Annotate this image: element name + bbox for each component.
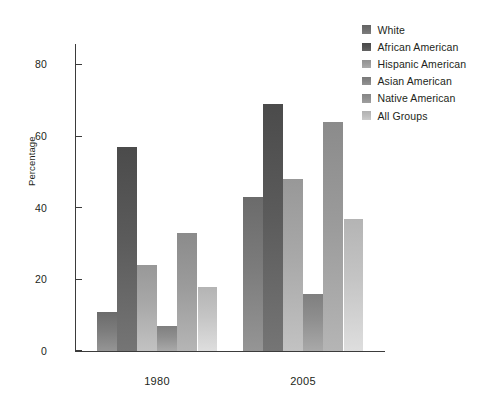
bar	[198, 287, 218, 351]
legend-item[interactable]: Hispanic American	[362, 55, 500, 72]
bar	[303, 294, 323, 351]
legend-item-label: Native American	[378, 92, 456, 104]
y-axis-title: Percentage	[26, 136, 37, 186]
bar	[263, 104, 283, 351]
x-tick-label: 2005	[243, 375, 363, 387]
y-tick-label: 40	[35, 202, 47, 214]
y-tick-mark	[76, 350, 82, 351]
bar	[283, 179, 303, 351]
y-axis-line	[75, 44, 76, 352]
legend-item[interactable]: Native American	[362, 90, 500, 107]
y-tick-mark	[76, 136, 82, 137]
bar	[117, 147, 137, 351]
legend-item-label: Hispanic American	[378, 58, 467, 70]
x-tick-label: 1980	[97, 375, 217, 387]
legend-item-label: White	[378, 24, 405, 36]
legend-item[interactable]: African American	[362, 38, 500, 55]
bar	[177, 233, 197, 351]
legend-item-label: All Groups	[378, 110, 428, 122]
plot-area: 020406080 19802005	[75, 20, 360, 352]
legend-item[interactable]: All Groups	[362, 107, 500, 124]
bar	[157, 326, 177, 351]
legend-swatch-icon	[362, 60, 371, 69]
y-tick-label: 0	[41, 345, 47, 357]
bar	[97, 312, 117, 351]
legend-item-label: African American	[378, 41, 459, 53]
legend-item-label: Asian American	[378, 75, 452, 87]
bar	[137, 265, 157, 351]
legend-swatch-icon	[362, 43, 371, 52]
legend-swatch-icon	[362, 111, 371, 120]
y-tick-mark	[76, 279, 82, 280]
bar	[344, 219, 364, 352]
bar	[323, 122, 343, 351]
y-tick-label: 80	[35, 58, 47, 70]
chart-legend: WhiteAfrican AmericanHispanic AmericanAs…	[362, 21, 500, 124]
bar-chart-figure: 020406080 19802005 Percentage WhiteAfric…	[0, 0, 503, 411]
y-tick-label: 20	[35, 273, 47, 285]
bar	[243, 197, 263, 351]
legend-item[interactable]: Asian American	[362, 73, 500, 90]
legend-swatch-icon	[362, 94, 371, 103]
legend-item[interactable]: White	[362, 21, 500, 38]
legend-swatch-icon	[362, 25, 371, 34]
x-axis-line	[75, 351, 385, 352]
legend-swatch-icon	[362, 77, 371, 86]
y-tick-mark	[76, 207, 82, 208]
y-tick-mark	[76, 64, 82, 65]
